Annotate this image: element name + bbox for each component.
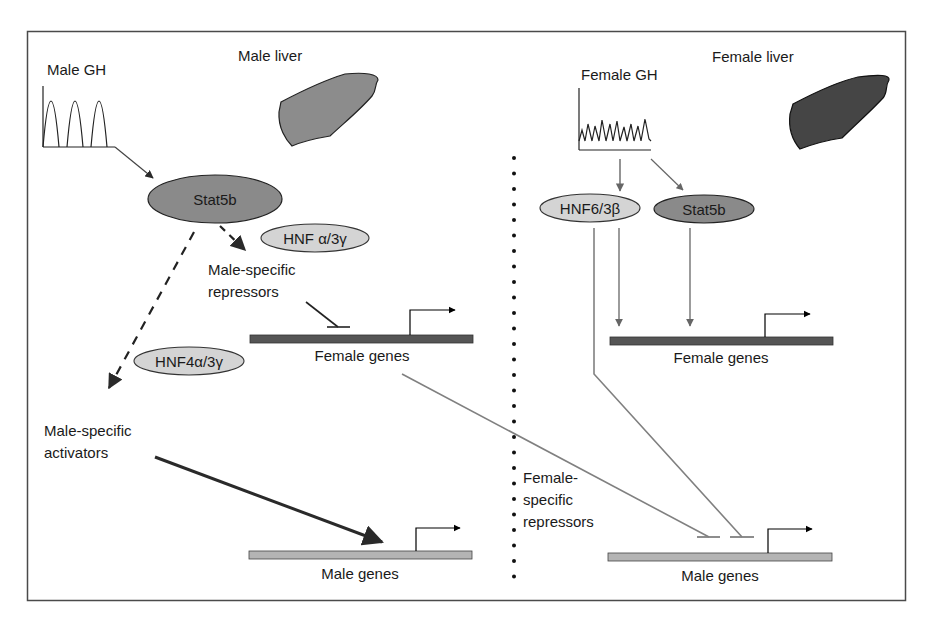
male-panel: Male liver Male GH Stat5b HNF α/3γ Male-…	[43, 47, 473, 582]
male-genes-label-female-liver: Male genes	[681, 567, 759, 584]
female-specific-repressors-label: Female-	[523, 469, 578, 486]
female-genes-bar-male-liver	[250, 335, 473, 343]
male-specific-activators-label-2: activators	[44, 444, 108, 461]
hnf-alpha-3gamma-label: HNF α/3γ	[283, 230, 347, 247]
male-gh-pulse-icon	[43, 86, 115, 147]
promoter-arrow-icon	[410, 310, 455, 335]
female-gh-label: Female GH	[581, 66, 658, 83]
male-genes-label-male-liver: Male genes	[321, 565, 399, 582]
male-gh-label: Male GH	[47, 61, 106, 78]
stat5b-label-male: Stat5b	[193, 191, 236, 208]
activators-to-male-genes-arrow	[155, 457, 382, 542]
stat5b-to-repressors-arrow	[220, 226, 245, 250]
gh-regulation-diagram: Male liver Male GH Stat5b HNF α/3γ Male-…	[0, 0, 933, 619]
female-genes-label-male-liver: Female genes	[314, 347, 409, 364]
male-genes-bar-female-liver	[608, 553, 832, 561]
male-liver-icon	[279, 73, 378, 146]
male-genes-bar-male-liver	[249, 551, 472, 559]
hnf6-repression-line	[594, 228, 742, 537]
promoter-arrow-icon	[416, 528, 460, 551]
female-liver-icon	[790, 75, 889, 149]
male-specific-activators-label: Male-specific	[44, 422, 132, 439]
female-genes-bar-female-liver	[610, 337, 833, 345]
male-specific-repressors-label-2: repressors	[208, 283, 279, 300]
female-gh-waveform-icon	[579, 88, 651, 150]
female-specific-repressors-label-2: specific	[523, 491, 574, 508]
gh-to-stat5b-arrow-female	[651, 159, 683, 190]
male-specific-repressors-label: Male-specific	[208, 261, 296, 278]
hnf4-alpha-3gamma-label: HNF4α/3γ	[155, 353, 223, 370]
female-liver-title: Female liver	[712, 48, 794, 65]
hnf6-3beta-label: HNF6/3β	[560, 200, 621, 217]
female-specific-repressors-label-3: repressors	[523, 513, 594, 530]
male-liver-title: Male liver	[238, 47, 302, 64]
female-genes-label-female-liver: Female genes	[673, 349, 768, 366]
figure-frame	[28, 32, 906, 601]
female-panel: Female liver Female GH HNF6/3β Stat5b Fe…	[402, 48, 889, 584]
stat5b-label-female: Stat5b	[682, 201, 725, 218]
repression-inhibit-icon	[306, 302, 350, 327]
promoter-arrow-icon	[768, 529, 812, 553]
promoter-arrow-icon	[765, 314, 810, 337]
gh-to-stat5b-arrow	[115, 147, 153, 178]
